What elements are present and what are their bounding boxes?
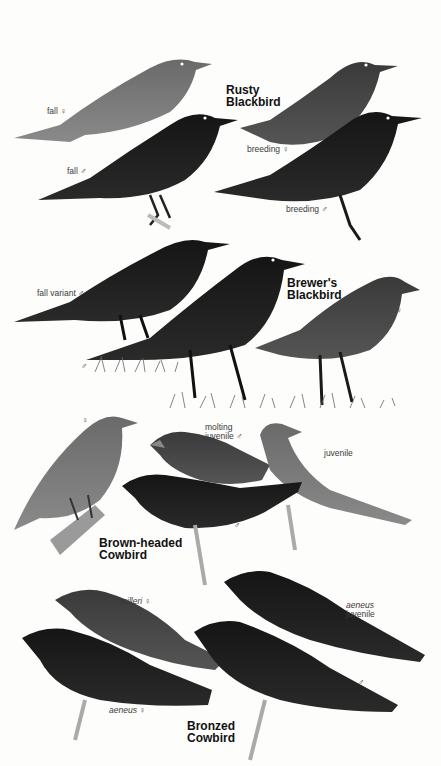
label-juvenile-male: juvenile ♂ [205, 432, 243, 441]
field-guide-plate: Rusty Blackbird fall ♀ fall ♂ breeding ♀… [0, 0, 441, 766]
label-fall-variant-male: fall variant ♂ [37, 289, 84, 298]
bh-cowbird-female [14, 417, 138, 556]
label-juvenile: juvenile [346, 610, 375, 619]
title-line2: Cowbird [187, 732, 235, 744]
label-male: ♂ [358, 678, 364, 687]
label-fall-female: fall ♀ [47, 107, 67, 116]
label-female: ♀ [82, 416, 88, 425]
title-line2: Blackbird [226, 96, 281, 108]
label-breeding-male: breeding ♂ [286, 205, 328, 214]
title-line2: Cowbird [99, 549, 182, 561]
label-fall-male: fall ♂ [67, 167, 87, 176]
label-male: ♂ [81, 362, 87, 371]
label-milleri-female: milleri ♀ [120, 597, 151, 606]
label-breeding-female: breeding ♀ [247, 145, 289, 154]
label-juvenile: juvenile [324, 449, 353, 458]
species-title-bronzed-cowbird: Bronzed Cowbird [187, 720, 235, 744]
bh-cowbird-male [122, 474, 302, 585]
species-title-brewers-blackbird: Brewer's Blackbird [287, 277, 342, 301]
grass [95, 356, 395, 408]
label-female: ♀ [396, 306, 402, 315]
label-aeneus-female: aeneus ♀ [109, 706, 146, 715]
species-title-rusty-blackbird: Rusty Blackbird [226, 84, 281, 108]
label-male: ♂ [234, 521, 240, 530]
species-title-brown-headed-cowbird: Brown-headed Cowbird [99, 537, 182, 561]
title-line2: Blackbird [287, 289, 342, 301]
